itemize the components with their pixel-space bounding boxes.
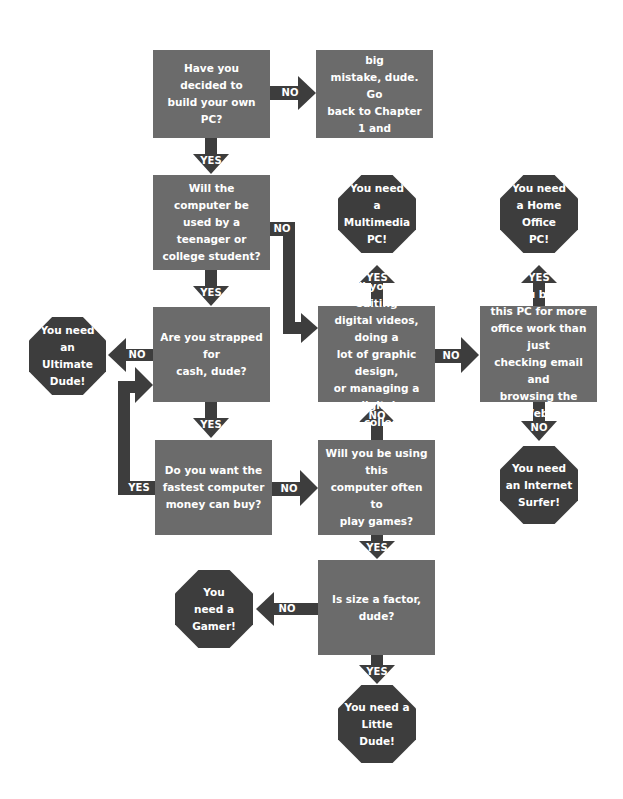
question-text: Is size a factor, dude? (324, 591, 429, 625)
question-build-own-pc: Have you decided to build your own PC? (153, 50, 270, 138)
yes-label-q3: YES (196, 419, 226, 431)
result-little-dude: You need a Little Dude! (338, 685, 416, 763)
question-text: Are you strapped for cash, dude? (159, 329, 264, 380)
result-text: You need a Gamer! (192, 584, 236, 635)
question-text: Will you be using this PC for more offic… (486, 286, 591, 422)
result-internet-surfer: You need an Internet Surfer! (500, 446, 578, 524)
question-play-games: Will you be using this computer often to… (318, 440, 435, 535)
yes-label-q2: YES (196, 287, 226, 299)
result-text: You need an Ultimate Dude! (33, 322, 102, 390)
result-gamer: You need a Gamer! (175, 570, 253, 648)
no-label-q5: NO (440, 350, 462, 362)
question-text: Will you be using this computer often to… (324, 445, 429, 530)
question-multimedia-work: Will you be editing digital videos, doin… (318, 306, 435, 402)
yes-label-q7: YES (362, 542, 392, 554)
question-size-factor: Is size a factor, dude? (318, 560, 435, 655)
result-multimedia-pc: You need a Multimedia PC! (338, 175, 416, 253)
question-text: Will the computer be used by a teenager … (159, 180, 264, 265)
no-label-q4: NO (278, 483, 300, 495)
result-text: You need a Home Office PC! (504, 180, 574, 248)
no-label-q3: NO (126, 349, 148, 361)
question-text: Have you decided to build your own PC? (159, 60, 264, 128)
no-label-q2: NO (272, 223, 292, 235)
result-text: You need an Internet Surfer! (506, 460, 573, 511)
result-text: You need a Little Dude! (342, 699, 412, 750)
yes-label-q4: YES (124, 482, 154, 494)
result-text: You need a Multimedia PC! (342, 180, 412, 248)
question-text: Will you be editing digital videos, doin… (324, 278, 429, 431)
no-label-q8: NO (276, 603, 298, 615)
question-teen-or-student: Will the computer be used by a teenager … (153, 175, 270, 270)
no-label-q1: NO (280, 87, 300, 99)
question-text: Do you want the fastest computer money c… (163, 462, 265, 513)
yes-label-q1: YES (196, 155, 226, 167)
result-ultimate-dude: You need an Ultimate Dude! (29, 317, 106, 395)
question-fastest-computer: Do you want the fastest computer money c… (155, 440, 272, 535)
yes-label-q6: YES (524, 272, 554, 284)
question-strapped-for-cash: Are you strapped for cash, dude? (153, 307, 270, 402)
result-big-mistake: You're making a big mistake, dude. Go ba… (316, 50, 433, 138)
result-home-office-pc: You need a Home Office PC! (500, 175, 578, 253)
question-text: You're making a big mistake, dude. Go ba… (322, 35, 427, 154)
no-label-q6: NO (528, 422, 550, 434)
question-office-work: Will you be using this PC for more offic… (480, 306, 597, 402)
yes-label-q8: YES (362, 666, 392, 678)
